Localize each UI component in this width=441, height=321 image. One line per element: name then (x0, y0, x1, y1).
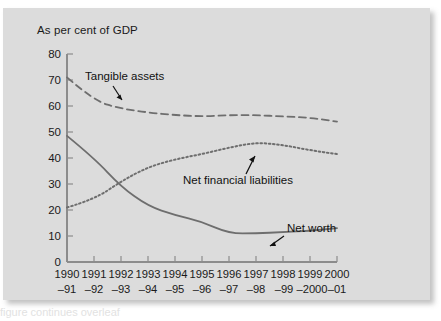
x-tick-label-year: 1992 (109, 268, 134, 280)
annotation-label-net-financial-liabilities: Net financial liabilities (183, 174, 293, 186)
y-axis-tick-labels: 0 10 20 30 40 50 60 70 80 (48, 48, 61, 268)
y-tick-label: 0 (55, 256, 61, 268)
x-axis-tick-labels-bottom: –91 –92 –93 –94 –95 –96 –97 –98 –99 –200… (58, 283, 347, 295)
y-tick-label: 10 (48, 230, 61, 242)
y-tick-label: 40 (48, 152, 61, 164)
x-tick-label-year-end: –95 (166, 283, 185, 295)
x-tick-label-year: 1990 (55, 268, 80, 280)
x-tick-label-year-end: –01 (328, 283, 347, 295)
x-tick-label-year-end: –91 (58, 283, 77, 295)
y-tick-label: 30 (48, 178, 61, 190)
figure-panel: As per cent of GDP 0 10 20 30 40 50 60 (3, 8, 430, 300)
x-tick-label-year-end: –94 (139, 283, 158, 295)
annotation-tangible-assets: Tangible assets (85, 70, 165, 100)
annotation-net-financial-liabilities: Net financial liabilities (183, 156, 293, 186)
x-tick-label-year: 1993 (136, 268, 161, 280)
x-tick-label-year-end: –92 (85, 283, 104, 295)
annotation-net-worth: Net worth (270, 222, 336, 246)
x-tick-label-year-end: –99 (275, 283, 294, 295)
x-tick-label-year-end: –93 (112, 283, 131, 295)
x-tick-label-year-end: –2000 (296, 283, 327, 295)
y-tick-label: 70 (48, 74, 61, 86)
x-tick-label-year: 1995 (190, 268, 215, 280)
y-tick-label: 60 (48, 100, 61, 112)
x-tick-label-year: 1998 (271, 268, 296, 280)
x-tick-label-year: 1994 (163, 268, 188, 280)
series-line-tangible-assets (67, 77, 337, 121)
x-axis-tick-labels-top: 1990 1991 1992 1993 1994 1995 1996 1997 … (55, 268, 350, 280)
y-tick-label: 20 (48, 204, 61, 216)
annotation-label-tangible-assets: Tangible assets (85, 70, 165, 82)
x-tick-label-year-end: –97 (220, 283, 239, 295)
y-tick-label: 50 (48, 126, 61, 138)
x-tick-label-year: 1996 (217, 268, 242, 280)
x-tick-label-year: 1997 (244, 268, 269, 280)
caption-bleed-text: figure continues overleaf (0, 306, 441, 320)
x-tick-label-year: 2000 (325, 268, 350, 280)
x-tick-label-year-end: –98 (247, 283, 266, 295)
y-tick-label: 80 (48, 48, 61, 60)
x-tick-label-year: 1999 (298, 268, 323, 280)
annotation-label-net-worth: Net worth (287, 222, 336, 234)
line-chart: 0 10 20 30 40 50 60 70 80 1990 (3, 8, 430, 300)
x-tick-label-year: 1991 (82, 268, 107, 280)
x-tick-label-year-end: –96 (193, 283, 212, 295)
